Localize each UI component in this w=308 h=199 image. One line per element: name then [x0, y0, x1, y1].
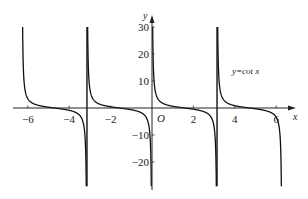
x-tick-label: 2	[191, 113, 197, 125]
x-tick-label: 6	[273, 113, 279, 125]
cot-branch	[153, 27, 217, 186]
y-tick-label: −10	[132, 129, 150, 141]
origin-label: O	[157, 112, 165, 124]
x-axis-label: x	[292, 111, 298, 122]
x-tick-label: −2	[105, 113, 117, 125]
y-tick-label: −20	[132, 156, 150, 168]
y-axis-label: y	[142, 10, 148, 21]
y-tick-label: 30	[138, 21, 150, 33]
cot-chart: −6−4−2246 302010−10−20 x y O y=cot x	[0, 0, 308, 199]
cot-branch	[218, 27, 282, 186]
y-tick-label: 10	[138, 75, 150, 87]
cot-branch	[23, 27, 87, 186]
x-tick-label: −6	[22, 113, 34, 125]
function-label: y=cot x	[231, 66, 259, 76]
x-tick-label: −4	[63, 113, 75, 125]
y-tick-label: 20	[138, 48, 150, 60]
x-axis-arrow-icon	[288, 106, 296, 111]
y-axis-arrow-icon	[150, 15, 155, 23]
x-tick-label: 4	[232, 113, 238, 125]
